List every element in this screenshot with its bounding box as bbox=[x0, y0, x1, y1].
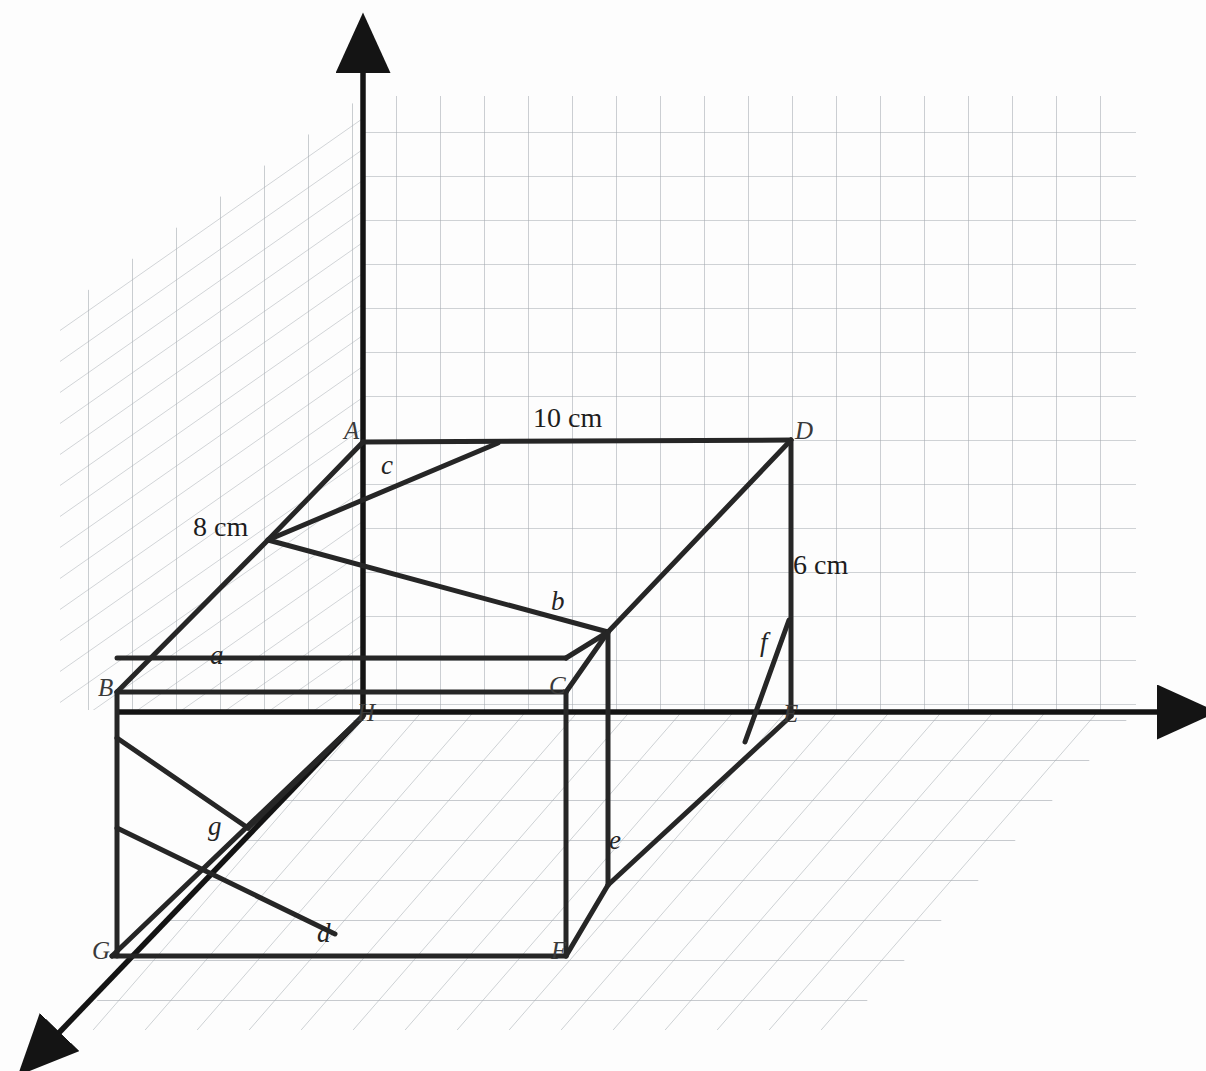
vertex-label-E: E bbox=[783, 701, 798, 726]
edge-label-a: a bbox=[210, 642, 224, 669]
edge-label-f: f bbox=[760, 629, 768, 656]
edge-label-d: d bbox=[317, 920, 331, 947]
plane-floor bbox=[70, 710, 1136, 1030]
edge-g bbox=[117, 738, 248, 828]
diagram-canvas: 10 cm 8 cm 6 cm A D B C H E G F a b c d … bbox=[0, 0, 1206, 1071]
vertex-label-C: C bbox=[549, 673, 566, 698]
edge-label-c: c bbox=[381, 452, 393, 479]
geometry-figure bbox=[0, 0, 1206, 1071]
plane-left-wall bbox=[60, 96, 363, 710]
vertex-label-D: D bbox=[795, 418, 813, 443]
dimension-label-length: 10 cm bbox=[533, 404, 602, 432]
vertex-label-F: F bbox=[551, 938, 566, 963]
vertex-label-A: A bbox=[344, 418, 359, 443]
vertex-label-G: G bbox=[92, 938, 110, 963]
dimension-label-height: 6 cm bbox=[793, 551, 848, 579]
vertex-label-B: B bbox=[98, 675, 113, 700]
edge-label-e: e bbox=[609, 827, 621, 854]
plane-back-wall bbox=[363, 96, 1136, 710]
edge-A-D bbox=[363, 440, 791, 442]
edge-label-b: b bbox=[551, 588, 565, 615]
edge-label-g: g bbox=[208, 813, 222, 840]
dimension-label-width: 8 cm bbox=[193, 513, 248, 541]
vertex-label-H: H bbox=[357, 700, 375, 725]
